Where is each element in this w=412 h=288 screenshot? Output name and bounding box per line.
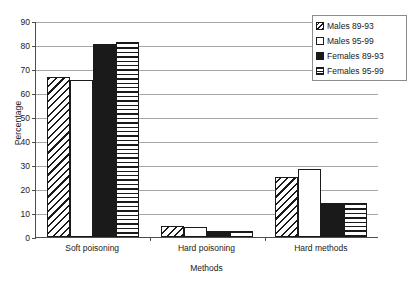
- legend-item[interactable]: Males 95-99: [316, 33, 404, 48]
- x-axis-tick-mark: [150, 237, 151, 241]
- bar: [344, 203, 367, 237]
- bar-group: [36, 22, 150, 237]
- y-axis-tick-label: 90: [6, 18, 30, 27]
- legend-item[interactable]: Females 89-93: [316, 48, 404, 63]
- bar: [230, 231, 253, 237]
- legend-item[interactable]: Females 95-99: [316, 63, 404, 78]
- y-axis-tick-labels: 0102030405060708090: [4, 0, 30, 288]
- y-axis-tick-label: 0: [6, 234, 30, 243]
- legend-item-label: Females 89-93: [327, 51, 384, 61]
- x-axis-tick-label: Hard poisoning: [149, 243, 263, 253]
- bar: [298, 169, 321, 237]
- bar: [70, 80, 93, 237]
- legend-swatch-icon: [316, 37, 324, 45]
- y-axis-tick-label: 40: [6, 138, 30, 147]
- bar: [207, 231, 230, 237]
- y-axis-tick-label: 80: [6, 42, 30, 51]
- y-axis-tick-label: 50: [6, 114, 30, 123]
- x-axis-tick-label: Soft poisoning: [35, 243, 149, 253]
- y-axis-tick-mark: [32, 238, 36, 239]
- bar: [275, 177, 298, 237]
- bar: [184, 227, 207, 237]
- x-axis-title: Methods: [35, 263, 378, 273]
- legend-item-label: Males 89-93: [327, 21, 374, 31]
- legend-item[interactable]: Males 89-93: [316, 18, 404, 33]
- x-axis-tick-label: Hard methods: [264, 243, 378, 253]
- bar: [116, 42, 139, 237]
- bar: [47, 77, 70, 237]
- legend-swatch-icon: [316, 52, 324, 60]
- y-axis-tick-label: 60: [6, 90, 30, 99]
- bar-group: [150, 22, 264, 237]
- x-axis-tick-mark: [265, 237, 266, 241]
- y-axis-tick-label: 70: [6, 66, 30, 75]
- legend-item-label: Males 95-99: [327, 36, 374, 46]
- x-axis-tick-labels: Soft poisoningHard poisoningHard methods: [35, 243, 378, 253]
- bar: [321, 203, 344, 237]
- y-axis-tick-label: 20: [6, 186, 30, 195]
- bar: [93, 44, 116, 237]
- bar: [161, 226, 184, 237]
- legend-swatch-icon: [316, 22, 324, 30]
- legend-item-label: Females 95-99: [327, 66, 384, 76]
- bar-chart-figure: Percentage 0102030405060708090 Soft pois…: [0, 0, 412, 288]
- legend-swatch-icon: [316, 67, 324, 75]
- y-axis-tick-label: 10: [6, 210, 30, 219]
- chart-legend: Males 89-93Males 95-99Females 89-93Femal…: [312, 15, 407, 81]
- y-axis-tick-label: 30: [6, 162, 30, 171]
